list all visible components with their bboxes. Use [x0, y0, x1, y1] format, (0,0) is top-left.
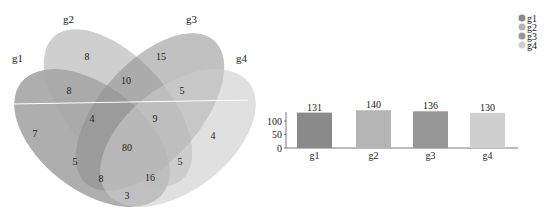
venn-label-g1: g1 [12, 52, 23, 64]
legend-dot-g3 [519, 33, 526, 40]
x-tick-label: g4 [483, 150, 493, 161]
venn-count: 16 [145, 172, 155, 183]
y-tick-label: 50 [272, 129, 282, 140]
venn-label-g4: g4 [236, 52, 248, 64]
y-tick-label: 0 [277, 143, 282, 154]
bar-g1 [297, 113, 332, 148]
legend-dot-g2 [519, 24, 526, 31]
bar-value-label: 130 [480, 102, 495, 113]
venn-count: 8 [99, 173, 104, 184]
bar-value-label: 140 [366, 99, 381, 110]
x-tick-label: g3 [426, 150, 436, 161]
venn-count: 5 [180, 85, 185, 96]
venn-count: 5 [178, 156, 183, 167]
venn-count: 15 [156, 51, 166, 62]
venn-count: 8 [67, 85, 72, 96]
x-tick-label: g2 [369, 150, 379, 161]
bar-g4 [470, 113, 505, 148]
figure: g1 g2 g3 g4 8 15 10 8 5 4 9 7 4 80 5 5 8… [0, 0, 545, 216]
bar-g2 [356, 110, 391, 148]
venn-count: 5 [73, 156, 78, 167]
legend: g1 g2 g3 g4 [519, 13, 538, 51]
bar-value-label: 136 [423, 100, 438, 111]
venn-diagram: g1 g2 g3 g4 8 15 10 8 5 4 9 7 4 80 5 5 8… [0, 3, 281, 216]
legend-dot-g1 [519, 15, 526, 22]
bar-chart: 100 50 0 131 140 136 130 g1 g2 g3 g4 [267, 99, 518, 161]
venn-count: 10 [121, 75, 131, 86]
venn-count: 8 [85, 51, 90, 62]
legend-label: g4 [527, 40, 537, 51]
venn-count: 9 [153, 113, 158, 124]
venn-count: 4 [90, 113, 95, 124]
venn-count: 7 [33, 128, 38, 139]
venn-count: 4 [211, 130, 216, 141]
venn-label-g3: g3 [186, 13, 198, 25]
y-tick-label: 100 [267, 116, 282, 127]
venn-label-g2: g2 [63, 13, 74, 25]
bar-value-label: 131 [307, 102, 322, 113]
legend-dot-g4 [519, 42, 526, 49]
x-tick-label: g1 [310, 150, 320, 161]
venn-count: 80 [122, 142, 132, 153]
bar-g3 [413, 111, 448, 148]
venn-count: 3 [125, 190, 130, 201]
